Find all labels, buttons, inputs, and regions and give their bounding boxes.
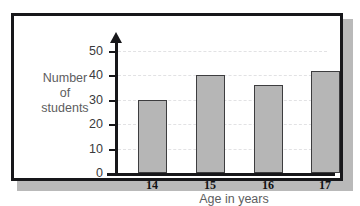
xtick-label-16: 16 [248, 178, 288, 193]
y-axis-title-line-2: of [26, 86, 104, 101]
plot-area: 50 40 30 20 10 0 14 15 16 17 Age in year… [14, 16, 340, 178]
bar-age-16 [254, 85, 283, 173]
bar-age-14 [138, 100, 167, 173]
y-axis-title: Number of students [26, 71, 104, 116]
ytick-label-20: 20 [69, 117, 103, 131]
y-axis-title-line-3: students [26, 101, 104, 116]
bar-chart-figure: 50 40 30 20 10 0 14 15 16 17 Age in year… [0, 0, 360, 206]
x-axis-line [107, 173, 335, 176]
ytick-label-10: 10 [69, 142, 103, 156]
x-axis-title: Age in years [134, 192, 334, 206]
bar-age-17 [311, 71, 340, 173]
ytick-label-50: 50 [69, 44, 103, 58]
ytick-label-0: 0 [69, 166, 103, 180]
xtick-label-15: 15 [190, 178, 230, 193]
chart-panel: 50 40 30 20 10 0 14 15 16 17 Age in year… [11, 13, 343, 181]
xtick-label-14: 14 [132, 178, 172, 193]
y-axis-title-line-1: Number [26, 71, 104, 86]
gridline-50 [118, 51, 327, 53]
y-axis-line [115, 40, 118, 174]
xtick-label-17: 17 [305, 178, 345, 193]
bar-age-15 [196, 75, 225, 173]
